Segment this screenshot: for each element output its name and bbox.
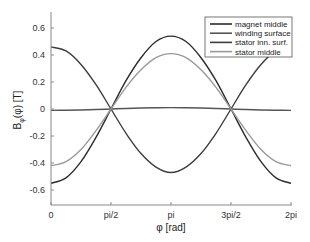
x-tick-label: pi [167, 210, 174, 220]
y-axis-label: Bφ(φ) [T] [12, 90, 26, 129]
x-axis-label: φ [rad] [156, 222, 185, 233]
y-ticks: 0.60.40.20-0.2-0.4-0.6 [29, 23, 54, 195]
y-tick-label: 0.6 [32, 23, 45, 33]
series-line-winding-surface [51, 108, 291, 111]
y-tick-label: 0 [40, 104, 45, 114]
plot-lines [51, 36, 291, 183]
x-tick-label: 3pi/2 [221, 210, 241, 220]
legend-label: winding surface [234, 29, 291, 38]
legend-label: stator inn. surf. [235, 38, 288, 47]
legend-label: stator middle [235, 48, 281, 57]
y-tick-label: -0.2 [29, 131, 45, 141]
svg-text:Bφ(φ) [T]: Bφ(φ) [T] [12, 90, 26, 129]
legend: magnet middlewinding surfacestator inn. … [205, 17, 292, 57]
legend-label: magnet middle [235, 20, 288, 29]
y-tick-label: 0.2 [32, 77, 45, 87]
y-label-rest: (φ) [T] [12, 90, 23, 118]
x-tick-label: pi/2 [104, 210, 119, 220]
line-chart: 0.60.40.20-0.2-0.4-0.6 0pi/2pi3pi/22pi φ… [0, 0, 310, 242]
y-tick-label: -0.4 [29, 158, 45, 168]
y-tick-label: -0.6 [29, 185, 45, 195]
x-tick-label: 0 [48, 210, 53, 220]
y-tick-label: 0.4 [32, 50, 45, 60]
x-tick-label: 2pi [285, 210, 297, 220]
